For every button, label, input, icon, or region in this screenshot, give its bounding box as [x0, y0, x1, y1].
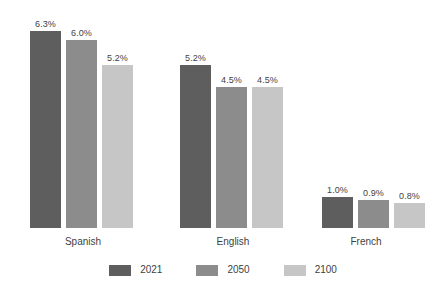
legend-label: 2021: [140, 264, 162, 276]
bar-spanish-2100[interactable]: [102, 65, 133, 228]
bar-value-label: 4.5%: [221, 75, 242, 85]
bar-french-2050[interactable]: [358, 200, 389, 228]
legend-item-2100[interactable]: 2100: [284, 264, 337, 276]
legend-label: 2100: [315, 264, 337, 276]
bar-slot-french-2021[interactable]: 1.0%: [322, 31, 353, 228]
bar-french-2100[interactable]: [394, 203, 425, 228]
bar-slot-french-2100[interactable]: 0.8%: [394, 31, 425, 228]
legend-swatch-icon: [109, 265, 131, 276]
axis-label-french: French: [350, 236, 381, 248]
bar-value-label: 0.9%: [363, 188, 384, 198]
legend-item-2021[interactable]: 2021: [109, 264, 162, 276]
bar-english-2021[interactable]: [180, 65, 211, 228]
bar-english-2050[interactable]: [216, 87, 247, 228]
bar-slot-spanish-2100[interactable]: 5.2%: [102, 31, 133, 228]
bar-value-label: 1.0%: [327, 185, 348, 195]
bar-slot-english-2050[interactable]: 4.5%: [216, 31, 247, 228]
bar-group-french: 1.0% 0.9% 0.8%: [322, 31, 425, 228]
bar-value-label: 6.3%: [35, 19, 56, 29]
bar-english-2100[interactable]: [252, 87, 283, 228]
axis-label-spanish: Spanish: [65, 236, 101, 248]
legend-label: 2050: [227, 264, 249, 276]
legend-swatch-icon: [284, 265, 306, 276]
bar-value-label: 4.5%: [257, 75, 278, 85]
bar-value-label: 0.8%: [399, 191, 420, 201]
bar-group-english: 5.2% 4.5% 4.5%: [180, 31, 283, 228]
bar-value-label: 6.0%: [71, 28, 92, 38]
bar-slot-french-2050[interactable]: 0.9%: [358, 31, 389, 228]
axis-label-english: English: [217, 236, 250, 248]
bar-slot-english-2021[interactable]: 5.2%: [180, 31, 211, 228]
chart-legend: 2021 2050 2100: [0, 264, 446, 276]
legend-item-2050[interactable]: 2050: [196, 264, 249, 276]
bar-group-spanish: 6.3% 6.0% 5.2%: [30, 31, 133, 228]
bar-french-2021[interactable]: [322, 197, 353, 228]
legend-swatch-icon: [196, 265, 218, 276]
bar-chart: 6.3% 6.0% 5.2% 5.2% 4.5% 4.5%: [0, 0, 446, 297]
bar-value-label: 5.2%: [107, 53, 128, 63]
bar-slot-spanish-2021[interactable]: 6.3%: [30, 31, 61, 228]
bar-spanish-2050[interactable]: [66, 40, 97, 228]
bar-slot-spanish-2050[interactable]: 6.0%: [66, 31, 97, 228]
bar-value-label: 5.2%: [185, 53, 206, 63]
plot-area: 6.3% 6.0% 5.2% 5.2% 4.5% 4.5%: [0, 0, 446, 232]
bar-slot-english-2100[interactable]: 4.5%: [252, 31, 283, 228]
bar-spanish-2021[interactable]: [30, 31, 61, 228]
